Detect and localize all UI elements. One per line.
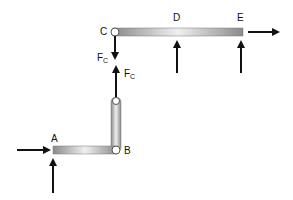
fc-top-sub: C: [103, 57, 108, 64]
fc-bottom-sub: C: [130, 73, 135, 80]
label-fc-top: FC: [97, 53, 108, 64]
label-b: B: [124, 146, 131, 156]
label-a: A: [51, 134, 58, 144]
member-b-vertical: [111, 97, 121, 152]
label-d: D: [173, 13, 180, 23]
label-c: C: [100, 27, 107, 37]
member-cde: [111, 28, 243, 36]
free-body-diagram: C D E FC FC A B: [0, 0, 293, 200]
member-ab: [53, 146, 120, 154]
diagram-graphics: [0, 0, 293, 200]
label-e: E: [237, 13, 244, 23]
label-fc-bottom: FC: [124, 69, 135, 80]
